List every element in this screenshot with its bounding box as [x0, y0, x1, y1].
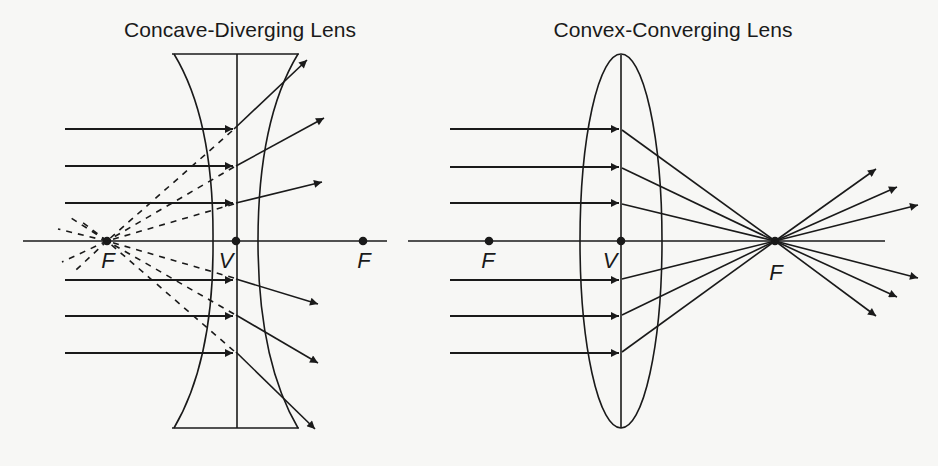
convex-focal-point-left [486, 238, 493, 245]
concave-label-virtual-focus: F [101, 248, 114, 274]
convex-vertex-point [618, 238, 625, 245]
convex-label-focus-left: F [481, 248, 494, 274]
convex-label-vertex: V [603, 248, 618, 274]
concave-refracted-rays [234, 60, 324, 429]
concave-label-focus-right: F [357, 248, 370, 274]
convex-label-focus-right: F [769, 260, 782, 286]
convex-lens-diagram [408, 54, 918, 428]
convex-diverging-rays-after-focus [775, 169, 918, 316]
lens-diagrams [0, 0, 938, 466]
concave-label-vertex: V [219, 248, 234, 274]
concave-lens-diagram [23, 54, 387, 429]
concave-focal-point-right [360, 238, 367, 245]
concave-vertex-point [233, 238, 240, 245]
